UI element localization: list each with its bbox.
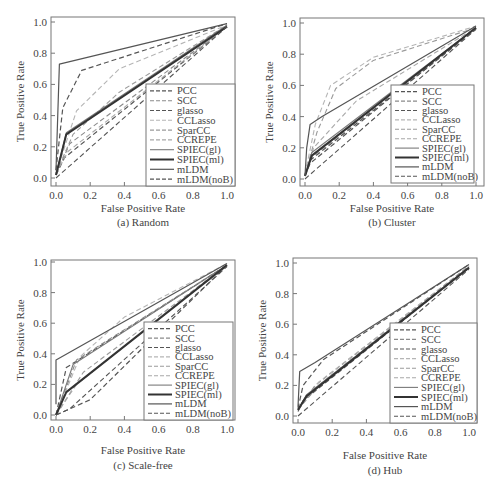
y-tick-label: 0.2 bbox=[33, 378, 47, 390]
y-tick-label: 0.2 bbox=[33, 141, 47, 153]
y-axis-label: True Positive Rate bbox=[14, 299, 26, 381]
x-tick-label: 0.2 bbox=[83, 189, 97, 201]
roc-panel-c: 0.00.20.40.60.81.00.00.20.40.60.81.0Fals… bbox=[14, 256, 235, 472]
x-tick-label: 0.0 bbox=[49, 189, 63, 201]
y-tick-label: 0.4 bbox=[33, 110, 47, 122]
x-tick-label: 0.8 bbox=[186, 423, 200, 435]
x-tick-label: 0.8 bbox=[428, 426, 442, 438]
x-tick-label: 0.6 bbox=[152, 189, 166, 201]
y-tick-label: 0.6 bbox=[275, 318, 289, 330]
y-axis: 0.00.20.40.60.81.0 bbox=[33, 256, 55, 421]
roc-figure: 0.00.20.40.60.81.00.00.20.40.60.81.0Fals… bbox=[0, 0, 495, 493]
y-tick-label: 1.0 bbox=[282, 17, 296, 29]
x-tick-label: 0.8 bbox=[435, 189, 449, 201]
roc-panel-b: 0.00.20.40.60.81.00.00.20.40.60.81.0Fals… bbox=[263, 17, 484, 229]
y-axis: 0.00.20.40.60.81.0 bbox=[282, 17, 304, 185]
y-tick-label: 0.2 bbox=[275, 379, 289, 391]
roc-figure-canvas: 0.00.20.40.60.81.00.00.20.40.60.81.0Fals… bbox=[0, 0, 495, 493]
y-tick-label: 0.0 bbox=[33, 409, 47, 421]
x-tick-label: 0.6 bbox=[152, 423, 166, 435]
y-tick-label: 1.0 bbox=[275, 257, 289, 269]
x-tick-label: 0.0 bbox=[291, 426, 305, 438]
legend: PCCSCCglassoCCLassoSparCCCCREPESPIEC(gl)… bbox=[391, 85, 479, 183]
x-tick-label: 0.4 bbox=[118, 423, 132, 435]
panel-caption: (a) Random bbox=[117, 216, 170, 229]
y-axis-label: True Positive Rate bbox=[256, 300, 268, 382]
y-tick-label: 0.4 bbox=[275, 349, 289, 361]
x-axis-label: False Positive Rate bbox=[350, 202, 434, 214]
y-tick-label: 0.8 bbox=[33, 47, 47, 59]
x-tick-label: 0.2 bbox=[83, 423, 97, 435]
x-axis-label: False Positive Rate bbox=[101, 444, 185, 456]
y-axis: 0.00.20.40.60.81.0 bbox=[33, 16, 55, 184]
x-axis-label: False Positive Rate bbox=[343, 449, 427, 461]
y-axis-label: True Positive Rate bbox=[14, 61, 26, 143]
panel-caption: (c) Scale-free bbox=[113, 459, 173, 472]
y-tick-label: 0.8 bbox=[275, 288, 289, 300]
y-tick-label: 0.4 bbox=[282, 111, 296, 123]
legend-label: mLDM(noB) bbox=[422, 171, 479, 183]
y-tick-label: 0.0 bbox=[33, 172, 47, 184]
y-tick-label: 0.8 bbox=[33, 287, 47, 299]
legend-label: mLDM(noB) bbox=[177, 174, 234, 186]
x-tick-label: 0.4 bbox=[360, 426, 374, 438]
y-axis: 0.00.20.40.60.81.0 bbox=[275, 257, 297, 422]
legend: PCCSCCglassoCCLassoSparCCCCREPESPIEC(gl)… bbox=[146, 84, 235, 186]
roc-panel-a: 0.00.20.40.60.81.00.00.20.40.60.81.0Fals… bbox=[14, 16, 235, 229]
y-tick-label: 1.0 bbox=[33, 256, 47, 268]
x-tick-label: 0.2 bbox=[325, 426, 339, 438]
legend-label: mLDM(noB) bbox=[175, 408, 232, 420]
legend: PCCSCCglassoCCLassoSparCCCCREPESPIEC(gl)… bbox=[390, 323, 478, 423]
x-tick-label: 1.0 bbox=[220, 423, 234, 435]
x-tick-label: 1.0 bbox=[462, 426, 476, 438]
x-tick-label: 0.6 bbox=[394, 426, 408, 438]
x-tick-label: 0.0 bbox=[298, 189, 312, 201]
y-tick-label: 0.8 bbox=[282, 48, 296, 60]
x-tick-label: 1.0 bbox=[220, 189, 234, 201]
y-tick-label: 1.0 bbox=[33, 16, 47, 28]
y-tick-label: 0.0 bbox=[282, 173, 296, 185]
y-tick-label: 0.6 bbox=[33, 78, 47, 90]
x-tick-label: 0.6 bbox=[401, 189, 415, 201]
x-tick-label: 0.2 bbox=[332, 189, 346, 201]
roc-panel-d: 0.00.20.40.60.81.00.00.20.40.60.81.0Fals… bbox=[256, 257, 478, 477]
legend: PCCSCCglassoCCLassoSparCCCCREPESPIEC(gl)… bbox=[144, 322, 233, 420]
x-tick-label: 1.0 bbox=[469, 189, 483, 201]
y-tick-label: 0.6 bbox=[33, 317, 47, 329]
x-tick-label: 0.4 bbox=[118, 189, 132, 201]
y-tick-label: 0.2 bbox=[282, 142, 296, 154]
x-tick-label: 0.0 bbox=[49, 423, 63, 435]
y-axis-label: True Positive Rate bbox=[263, 61, 275, 143]
panel-caption: (b) Cluster bbox=[368, 216, 416, 229]
y-tick-label: 0.4 bbox=[33, 348, 47, 360]
x-axis-label: False Positive Rate bbox=[101, 202, 185, 214]
x-tick-label: 0.4 bbox=[367, 189, 381, 201]
y-tick-label: 0.0 bbox=[275, 410, 289, 422]
y-tick-label: 0.6 bbox=[282, 79, 296, 91]
panel-caption: (d) Hub bbox=[368, 464, 403, 477]
x-tick-label: 0.8 bbox=[186, 189, 200, 201]
legend-label: mLDM(noB) bbox=[421, 411, 478, 423]
x-axis: 0.00.20.40.60.81.0 bbox=[298, 182, 483, 201]
